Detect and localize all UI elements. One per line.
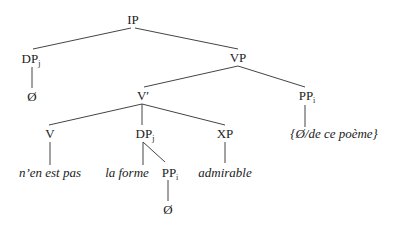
node-dp-subject: DPj	[22, 52, 41, 66]
node-xp: XP	[217, 127, 234, 141]
edge-vp-vbar	[144, 66, 238, 87]
node-admirable-label: admirable	[198, 165, 251, 180]
node-pp-inner-index: i	[176, 173, 178, 182]
node-null-subject: Ø	[27, 90, 36, 104]
node-vp: VP	[230, 51, 247, 65]
node-admirable: admirable	[198, 166, 251, 180]
node-xp-label: XP	[217, 126, 234, 141]
node-pp-inner-label: PP	[162, 165, 176, 180]
node-null-pp-label: Ø	[163, 202, 172, 217]
node-pp-right: PPi	[299, 89, 316, 103]
node-dp-subject-label: DP	[22, 51, 39, 66]
node-ip: IP	[127, 13, 139, 27]
node-null-pp: Ø	[163, 203, 172, 217]
node-pp-right-index: i	[313, 96, 315, 105]
edge-ip-vp	[135, 28, 238, 49]
node-dp-object: DPj	[136, 127, 155, 141]
node-vbar-label: V′	[137, 88, 149, 103]
node-la-forme-label: la forme	[105, 165, 149, 180]
node-v: V	[45, 127, 54, 141]
node-vbar: V′	[137, 89, 149, 103]
node-ip-label: IP	[127, 12, 139, 27]
node-dp-subject-index: j	[38, 59, 40, 68]
node-v-word: n’en est pas	[19, 166, 81, 180]
node-la-forme: la forme	[105, 166, 149, 180]
edge-dp-pp	[143, 142, 165, 162]
edge-ip-dp	[33, 28, 131, 49]
edge-vp-pp	[238, 66, 305, 87]
node-null-subject-label: Ø	[27, 89, 36, 104]
node-vp-label: VP	[230, 50, 247, 65]
node-pp-right-content: {Ø/de ce poème}	[290, 127, 378, 141]
node-dp-object-index: j	[152, 134, 154, 143]
edge-vbar-xp	[142, 104, 225, 125]
node-pp-right-content-label: {Ø/de ce poème}	[290, 126, 378, 141]
node-pp-inner: PPi	[162, 166, 179, 180]
edge-vbar-v	[49, 104, 142, 125]
tree-edges	[0, 0, 397, 227]
node-v-word-label: n’en est pas	[19, 165, 81, 180]
node-dp-object-label: DP	[136, 126, 153, 141]
node-pp-right-label: PP	[299, 88, 313, 103]
node-v-label: V	[45, 126, 54, 141]
